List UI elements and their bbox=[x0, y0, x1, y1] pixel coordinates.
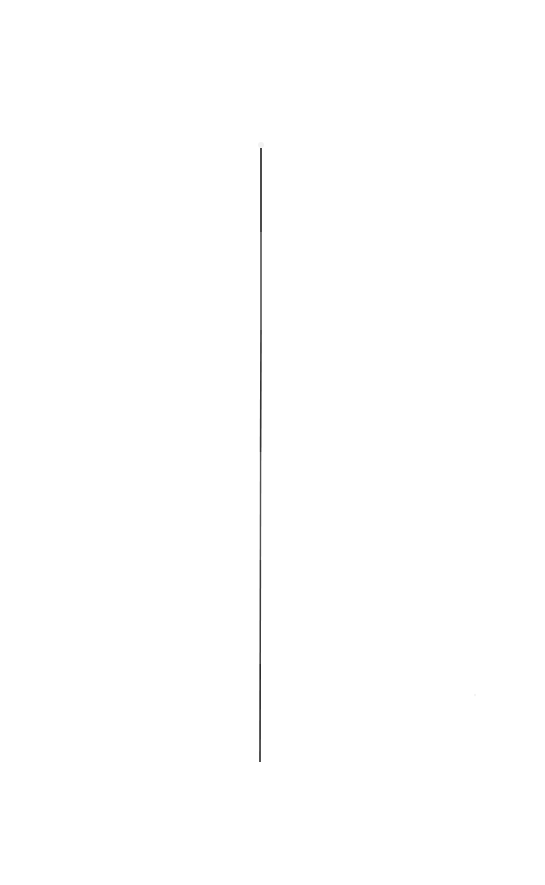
tip-artifact-speck bbox=[258, 142, 264, 148]
line-figure bbox=[0, 0, 545, 885]
page-speck bbox=[474, 694, 476, 696]
canvas-background bbox=[0, 0, 545, 885]
page-canvas: Blank white page containing a single thi… bbox=[0, 0, 545, 885]
